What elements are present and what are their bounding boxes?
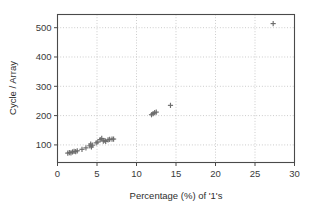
x-tick-label: 15 [171,168,182,179]
y-axis-ticks: 100200300400500 [36,22,58,150]
scatter-plot-canvas: 051015202530 100200300400500 Percentage … [0,0,311,206]
y-tick-label: 300 [36,81,52,92]
gridlines [58,15,295,163]
chart-figure: 051015202530 100200300400500 Percentage … [0,0,311,206]
x-tick-label: 5 [94,168,99,179]
y-tick-label: 500 [36,22,52,33]
x-tick-label: 25 [250,168,261,179]
y-tick-label: 200 [36,110,52,121]
data-point-marker [271,21,276,26]
y-axis-title: Cycle / Array [7,61,18,115]
data-point-marker [168,103,173,108]
y-tick-label: 100 [36,139,52,150]
x-tick-label: 10 [131,168,142,179]
x-tick-label: 30 [289,168,300,179]
y-tick-label: 400 [36,51,52,62]
x-tick-label: 20 [210,168,221,179]
x-axis-title: Percentage (%) of '1's [130,190,223,201]
x-axis-ticks: 051015202530 [55,163,300,179]
x-tick-label: 0 [55,168,60,179]
plot-frame [58,15,295,163]
